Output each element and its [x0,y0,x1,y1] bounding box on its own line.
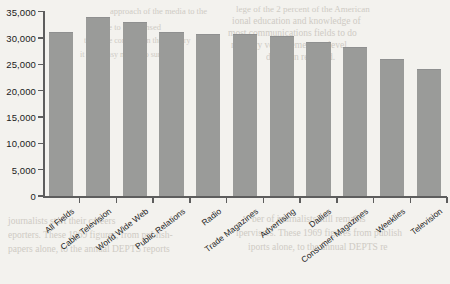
y-axis-tick-mark [38,64,44,65]
x-axis-label-text: Weeklies [374,206,407,235]
y-axis-tick-mark [38,11,44,12]
bar [196,34,220,196]
y-axis-tick-mark [38,143,44,144]
y-axis-tick-label: 20,000 [6,85,36,96]
bar [49,32,73,196]
x-axis-label-text: All Fields [43,206,76,235]
bar [417,69,441,196]
bar [159,32,183,196]
y-axis-tick-label: 10,000 [6,138,36,149]
x-axis-label-text: Dailies [307,206,333,230]
x-axis-label: Dailies [327,190,353,214]
y-axis-tick-label: 35,000 [6,6,36,17]
y-axis-tick-label: 15,000 [6,111,36,122]
y-axis-tick-label: 0 [31,191,36,202]
bar [343,47,367,196]
x-axis-label-text: Television [408,206,444,237]
y-axis-tick-mark [38,195,44,196]
y-axis-tick-mark [38,116,44,117]
bar [233,34,257,196]
y-axis-tick-mark [38,90,44,91]
y-axis-tick-label: 5,000 [12,164,36,175]
x-axis-label-text: Radio [200,206,224,228]
y-axis-tick-mark [38,37,44,38]
bar [123,22,147,196]
y-axis-tick-label: 25,000 [6,59,36,70]
bar [86,17,110,196]
bar [270,36,294,196]
y-axis-tick-mark [38,169,44,170]
bar [380,59,404,196]
y-axis-tick-label: 30,000 [6,32,36,43]
bar-chart: 05,00010,00015,00020,00025,00030,00035,0… [0,0,450,284]
x-axis-label-text: Consumer Magazines [299,206,370,265]
